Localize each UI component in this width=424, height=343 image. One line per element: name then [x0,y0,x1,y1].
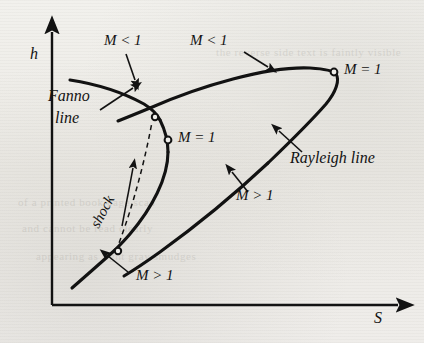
fanno-sonic-point-marker [165,137,172,144]
rayleigh-sonic-point-marker [331,69,338,76]
upper-intersection-point-marker [152,114,158,120]
rayleigh-line-curve [118,68,338,276]
leader-fanno-subsonic [126,54,135,80]
label-fanno-subsonic: M < 1 [104,33,142,49]
label-fanno-line-line1: Fanno [48,88,90,105]
leader-line-group [100,52,302,272]
x-axis-label: S [374,310,382,327]
leader-fanno-supersonic [108,256,128,272]
label-fanno-sonic: M = 1 [178,130,216,146]
fanno-rayleigh-diagram: the reverse side text is faintly visible… [0,0,424,343]
label-fanno-line-line2: line [55,110,79,127]
lower-intersection-point-marker [115,248,121,254]
y-axis-label: h [30,46,38,63]
shock-dashed-line [116,122,152,251]
leader-rayleigh-subsonic [244,52,268,67]
diagram-canvas [0,0,424,343]
label-rayleigh-sonic: M = 1 [344,62,382,78]
label-rayleigh-supersonic: M > 1 [236,188,274,204]
label-rayleigh-line: Rayleigh line [290,150,375,167]
label-rayleigh-subsonic: M < 1 [190,33,228,49]
label-fanno-supersonic: M > 1 [136,268,174,284]
